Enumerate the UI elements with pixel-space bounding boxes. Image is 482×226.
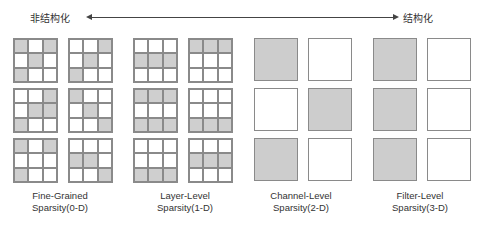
weight-kernel-grid [188, 38, 233, 83]
kept-weight-cell [83, 89, 97, 103]
kept-weight-cell [134, 139, 148, 153]
kept-weight-cell [148, 139, 162, 153]
kept-weight-cell [134, 68, 148, 82]
caption-layer-level: Layer-Level Sparsity(1-D) [130, 190, 240, 214]
kept-weight-cell [98, 68, 112, 82]
pruned-weight-cell [43, 103, 57, 117]
kept-weight-cell [28, 118, 42, 132]
pruned-weight-cell [134, 118, 148, 132]
weight-kernel-grid [133, 88, 178, 133]
kept-weight-cell [218, 168, 232, 182]
kept-weight-cell [163, 103, 177, 117]
pruned-weight-cell [69, 68, 83, 82]
pruned-weight-cell [14, 168, 28, 182]
weight-kernel-grid [188, 88, 233, 133]
weight-kernel-grid [133, 38, 178, 83]
kept-weight-cell [163, 153, 177, 167]
kept-weight-cell [218, 139, 232, 153]
kept-weight-cell [69, 53, 83, 67]
pruned-weight-cell [148, 53, 162, 67]
kept-weight-cell [218, 103, 232, 117]
kept-weight-cell [43, 118, 57, 132]
pruned-block [373, 138, 417, 181]
kept-weight-cell [148, 153, 162, 167]
kept-weight-cell [69, 39, 83, 53]
pruned-block [254, 138, 298, 181]
kept-weight-cell [163, 68, 177, 82]
kept-weight-cell [163, 39, 177, 53]
kept-weight-cell [28, 153, 42, 167]
pruned-weight-cell [134, 168, 148, 182]
kept-block [427, 38, 471, 81]
kept-weight-cell [83, 139, 97, 153]
caption-line2: Sparsity(2-D) [246, 202, 356, 214]
caption-line2: Sparsity(0-D) [5, 202, 115, 214]
structured-label: 结构化 [403, 10, 433, 25]
kept-weight-cell [203, 168, 217, 182]
pruned-block [308, 88, 352, 131]
kept-weight-cell [134, 103, 148, 117]
kept-weight-cell [69, 139, 83, 153]
pruned-block [373, 38, 417, 81]
pruned-weight-cell [43, 139, 57, 153]
kept-weight-cell [98, 103, 112, 117]
pruned-weight-cell [134, 89, 148, 103]
kept-weight-cell [163, 139, 177, 153]
kept-weight-cell [134, 39, 148, 53]
pruned-weight-cell [163, 89, 177, 103]
pruned-weight-cell [14, 139, 28, 153]
kept-weight-cell [148, 103, 162, 117]
kept-weight-cell [203, 89, 217, 103]
kept-weight-cell [189, 68, 203, 82]
pruned-weight-cell [69, 153, 83, 167]
kept-weight-cell [28, 39, 42, 53]
pruned-weight-cell [83, 103, 97, 117]
caption-line1: Fine-Grained [5, 190, 115, 202]
kept-weight-cell [83, 68, 97, 82]
kept-weight-cell [218, 53, 232, 67]
kept-weight-cell [218, 68, 232, 82]
weight-kernel-grid [13, 88, 58, 133]
kept-weight-cell [83, 39, 97, 53]
pruned-block [254, 38, 298, 81]
pruned-weight-cell [43, 89, 57, 103]
pruned-weight-cell [218, 39, 232, 53]
caption-line2: Sparsity(3-D) [365, 202, 475, 214]
pruned-weight-cell [98, 118, 112, 132]
weight-kernel-grid [68, 138, 113, 183]
pruned-weight-cell [148, 89, 162, 103]
caption-line1: Channel-Level [246, 190, 356, 202]
caption-line1: Layer-Level [130, 190, 240, 202]
kept-weight-cell [14, 53, 28, 67]
kept-weight-cell [218, 89, 232, 103]
pruned-weight-cell [203, 39, 217, 53]
kept-weight-cell [43, 168, 57, 182]
pruned-weight-cell [98, 168, 112, 182]
pruned-weight-cell [203, 118, 217, 132]
kept-block [427, 138, 471, 181]
kept-weight-cell [43, 53, 57, 67]
caption-line2: Sparsity(1-D) [130, 202, 240, 214]
kept-weight-cell [69, 118, 83, 132]
kept-weight-cell [203, 139, 217, 153]
pruned-weight-cell [148, 168, 162, 182]
pruned-weight-cell [218, 118, 232, 132]
pruned-weight-cell [189, 39, 203, 53]
weight-kernel-grid [188, 138, 233, 183]
kept-weight-cell [98, 153, 112, 167]
pruned-weight-cell [189, 153, 203, 167]
kept-block [308, 38, 352, 81]
kept-weight-cell [83, 168, 97, 182]
pruned-weight-cell [69, 89, 83, 103]
pruned-weight-cell [14, 68, 28, 82]
pruned-weight-cell [163, 118, 177, 132]
kept-weight-cell [28, 68, 42, 82]
kept-block [427, 88, 471, 131]
weight-kernel-grid [68, 88, 113, 133]
kept-weight-cell [28, 89, 42, 103]
caption-fine-grained: Fine-Grained Sparsity(0-D) [5, 190, 115, 214]
caption-line1: Filter-Level [365, 190, 475, 202]
pruned-weight-cell [163, 53, 177, 67]
pruned-weight-cell [14, 118, 28, 132]
kept-weight-cell [14, 153, 28, 167]
